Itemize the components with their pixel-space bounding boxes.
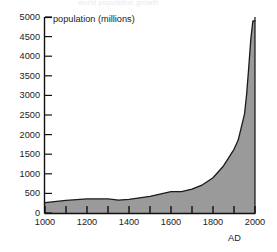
y-axis-ticks xyxy=(45,17,52,213)
y-tick-label: 1500 xyxy=(2,149,40,159)
y-tick-label: 500 xyxy=(2,188,40,198)
population-chart: world population growth population (mill… xyxy=(0,0,277,252)
y-tick-label: 1000 xyxy=(2,169,40,179)
x-tick-label: 1800 xyxy=(193,217,233,227)
population-area-fill xyxy=(45,21,255,213)
y-tick-label: 2500 xyxy=(2,110,40,120)
chart-canvas xyxy=(0,0,277,252)
y-tick-label: 4500 xyxy=(2,32,40,42)
x-tick-label: 2000 xyxy=(235,217,275,227)
y-tick-label: 2000 xyxy=(2,130,40,140)
y-axis-label: population (millions) xyxy=(53,14,135,25)
x-axis-label: AD xyxy=(228,233,241,244)
x-tick-label: 1400 xyxy=(109,217,149,227)
plot-area xyxy=(45,21,255,213)
x-tick-label: 1000 xyxy=(25,217,65,227)
y-tick-label: 3000 xyxy=(2,90,40,100)
y-tick-label: 5000 xyxy=(2,12,40,22)
y-tick-label: 4000 xyxy=(2,51,40,61)
x-tick-label: 1600 xyxy=(151,217,191,227)
x-tick-label: 1200 xyxy=(67,217,107,227)
y-tick-label: 3500 xyxy=(2,71,40,81)
